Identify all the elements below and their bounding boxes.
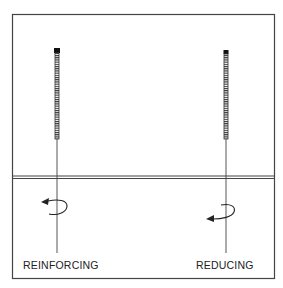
reinforcing-label: REINFORCING (23, 259, 99, 271)
reducing-label: REDUCING (196, 259, 254, 271)
needle-head-icon (54, 48, 60, 53)
needle-handle-coil (55, 53, 59, 139)
diagram-frame (13, 15, 275, 279)
needle-handle-coil (224, 54, 228, 139)
acupuncture-needle-diagram (0, 0, 283, 288)
counterclockwise-arrow-icon (41, 198, 67, 215)
needle-head-icon (224, 50, 229, 54)
reinforcing-needle (54, 48, 60, 253)
clockwise-arrow-icon (206, 204, 234, 222)
reducing-needle (224, 50, 229, 253)
